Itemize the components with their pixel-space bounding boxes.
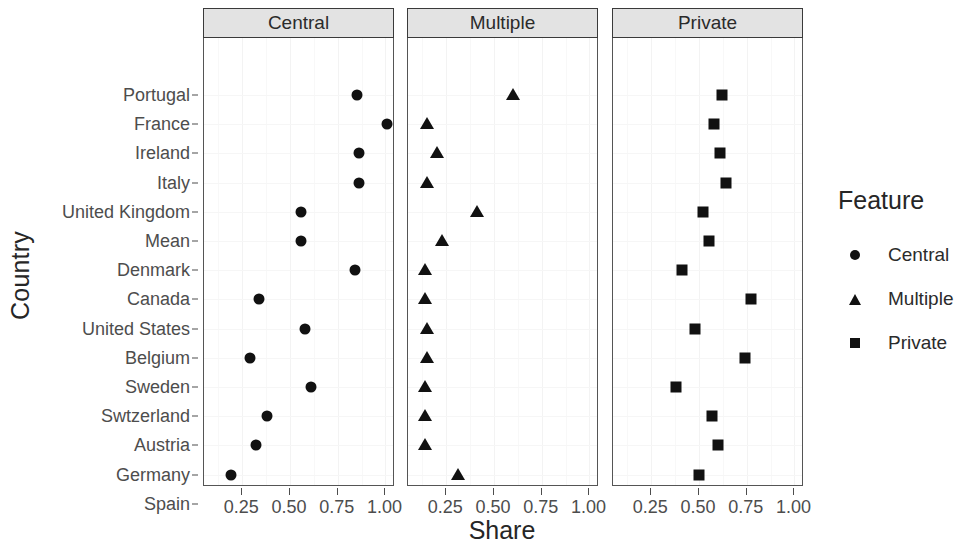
x-axis-tick-label: 1.00 xyxy=(571,497,606,518)
gridline-vertical-minor xyxy=(566,38,567,485)
y-axis-tick-mark xyxy=(192,387,198,388)
gridline-vertical xyxy=(385,38,386,485)
data-point xyxy=(697,206,708,217)
y-axis-tick-label: Sweden xyxy=(125,377,190,398)
plot-area xyxy=(612,38,803,486)
legend-entry-label: Private xyxy=(888,332,947,354)
gridline-horizontal xyxy=(408,358,597,359)
gridline-vertical-minor xyxy=(218,38,219,485)
gridline-horizontal xyxy=(613,475,802,476)
x-axis-tick-label: 1.00 xyxy=(776,497,811,518)
y-axis-tick-label: Ireland xyxy=(135,143,190,164)
y-axis-tick-label: United States xyxy=(82,318,190,339)
y-axis-tick-label: United Kingdom xyxy=(62,201,190,222)
x-axis-tick-mark xyxy=(650,488,651,495)
circle-icon xyxy=(838,250,872,260)
data-point xyxy=(703,236,714,247)
gridline-horizontal xyxy=(613,153,802,154)
data-point xyxy=(305,382,316,393)
x-axis-tick-label: 0.50 xyxy=(680,497,715,518)
x-axis-tick-mark xyxy=(337,488,338,495)
facet-strip-label: Multiple xyxy=(407,8,598,38)
gridline-vertical xyxy=(542,38,543,485)
y-axis-tick-label: Portugal xyxy=(123,85,190,106)
data-point xyxy=(693,469,704,480)
x-axis-tick-label: 0.25 xyxy=(633,497,668,518)
y-axis-tick-mark xyxy=(192,270,198,271)
data-point xyxy=(382,119,393,130)
legend-entry-multiple[interactable]: Multiple xyxy=(838,277,974,321)
y-axis-tick-mark xyxy=(192,357,198,358)
data-point xyxy=(418,263,432,275)
x-axis-tick-mark xyxy=(698,488,699,495)
triangle-glyph xyxy=(849,294,861,305)
data-point xyxy=(418,292,432,304)
data-point xyxy=(506,88,520,100)
square-glyph xyxy=(850,338,860,348)
chart-root: Country PortugalFranceIrelandItalyUnited… xyxy=(0,0,974,551)
data-point xyxy=(296,206,307,217)
y-axis-tick-label: Italy xyxy=(157,172,190,193)
data-point xyxy=(420,176,434,188)
gridline-horizontal xyxy=(613,299,802,300)
data-point xyxy=(739,352,750,363)
legend-entry-private[interactable]: Private xyxy=(838,321,974,365)
data-point xyxy=(296,236,307,247)
x-axis-title: Share xyxy=(198,516,806,545)
data-point xyxy=(435,234,449,246)
y-axis-tick-mark xyxy=(192,416,198,417)
gridline-horizontal xyxy=(613,124,802,125)
gridline-horizontal xyxy=(204,358,393,359)
y-axis-tick-mark xyxy=(192,241,198,242)
gridline-vertical xyxy=(794,38,795,485)
y-axis-tick-mark xyxy=(192,445,198,446)
gridline-vertical xyxy=(699,38,700,485)
legend: Feature CentralMultiplePrivate xyxy=(838,186,974,365)
y-axis-title: Country xyxy=(0,0,40,551)
x-axis-tick-label: 0.75 xyxy=(319,497,354,518)
gridline-horizontal xyxy=(613,445,802,446)
legend-entry-central[interactable]: Central xyxy=(838,233,974,277)
y-axis-tick-label: Denmark xyxy=(117,260,190,281)
legend-entry-label: Multiple xyxy=(888,288,953,310)
x-axis-tick-label: 1.00 xyxy=(367,497,402,518)
x-axis-tick-label: 0.25 xyxy=(224,497,259,518)
y-axis-tick-mark xyxy=(192,328,198,329)
data-point xyxy=(420,351,434,363)
data-point xyxy=(716,90,727,101)
gridline-horizontal xyxy=(408,124,597,125)
data-point xyxy=(418,409,432,421)
data-point xyxy=(430,146,444,158)
x-axis-tick-label: 0.75 xyxy=(523,497,558,518)
plot-area xyxy=(203,38,394,486)
gridline-horizontal xyxy=(408,387,597,388)
data-point xyxy=(418,380,432,392)
data-point xyxy=(709,119,720,130)
data-point xyxy=(707,411,718,422)
y-axis-tick-mark xyxy=(192,474,198,475)
gridline-horizontal xyxy=(204,416,393,417)
gridline-horizontal xyxy=(408,95,597,96)
y-axis-tick-mark xyxy=(192,299,198,300)
x-axis-tick-mark xyxy=(384,488,385,495)
gridline-vertical xyxy=(651,38,652,485)
y-axis-tick-mark xyxy=(192,153,198,154)
x-axis-tick-label: 0.75 xyxy=(728,497,763,518)
data-point xyxy=(690,323,701,334)
x-axis-tick-mark xyxy=(493,488,494,495)
y-axis-tick-label: Germany xyxy=(116,464,190,485)
gridline-horizontal xyxy=(613,329,802,330)
facet-panel-private: Private xyxy=(612,8,803,486)
y-axis-tick-mark xyxy=(192,124,198,125)
gridline-horizontal xyxy=(613,183,802,184)
gridline-horizontal xyxy=(204,183,393,184)
data-point xyxy=(676,265,687,276)
data-point xyxy=(353,148,364,159)
data-point xyxy=(225,469,236,480)
gridline-vertical-minor xyxy=(470,38,471,485)
gridline-horizontal xyxy=(408,299,597,300)
x-axis-tick-mark xyxy=(793,488,794,495)
y-axis-tick-label: Austria xyxy=(134,435,190,456)
gridline-horizontal xyxy=(613,358,802,359)
y-axis-tick-mark xyxy=(192,503,198,504)
